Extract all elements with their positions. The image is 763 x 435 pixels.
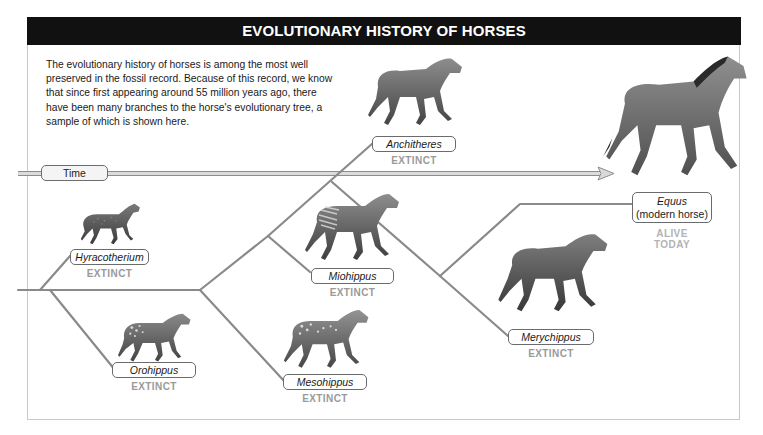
time-label: Time	[41, 165, 108, 181]
anchitheres-illustration	[366, 52, 466, 132]
species-label-mesohippus: Mesohippus	[283, 374, 367, 390]
orohippus-illustration	[116, 309, 194, 363]
branch-orohippus	[50, 290, 115, 370]
hyracotherium-illustration	[78, 201, 144, 247]
species-label-anchitheres: Anchitheres	[372, 136, 456, 152]
merychippus-illustration	[496, 228, 612, 318]
equus-subtitle: (modern horse)	[633, 208, 711, 221]
status-merychippus: EXTINCT	[508, 348, 594, 359]
miohippus-illustration	[303, 189, 403, 265]
species-label-orohippus: Orohippus	[112, 362, 196, 378]
equus-illustration	[600, 54, 756, 184]
branch-mesohippus	[200, 290, 285, 382]
species-label-hyracotherium: Hyracotherium	[70, 249, 149, 265]
species-label-miohippus: Miohippus	[311, 268, 394, 284]
mesohippus-illustration	[282, 306, 372, 370]
status-orohippus: EXTINCT	[112, 381, 196, 392]
status-equus: ALIVE TODAY	[632, 228, 712, 250]
status-hyracotherium: EXTINCT	[70, 268, 149, 279]
species-label-merychippus: Merychippus	[508, 329, 594, 345]
status-anchitheres: EXTINCT	[372, 155, 456, 166]
species-label-equus: Equus (modern horse)	[632, 192, 712, 223]
status-mesohippus: EXTINCT	[283, 393, 367, 404]
equus-name: Equus	[633, 195, 711, 208]
status-miohippus: EXTINCT	[311, 287, 394, 298]
branch-hyracotherium	[40, 256, 70, 290]
status-today-line: TODAY	[632, 239, 712, 250]
status-alive-line: ALIVE	[632, 228, 712, 239]
